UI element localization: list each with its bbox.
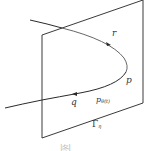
arrow-icon-upper xyxy=(106,42,111,46)
label-q: q xyxy=(71,98,77,107)
label-p-theta: pθ(t) xyxy=(96,96,110,104)
label-gamma-eta: Γη xyxy=(92,120,101,129)
label-r: r xyxy=(112,29,116,38)
figure: r p q pθ(t) Γη 图 … xyxy=(0,0,146,151)
label-eta-sub: η xyxy=(98,123,101,129)
figure-caption: 图 … xyxy=(0,144,146,151)
label-p: p xyxy=(126,76,132,85)
curve-lower-arc xyxy=(42,72,126,100)
curve-outgoing xyxy=(5,100,42,108)
curve-upper-arc xyxy=(62,28,127,72)
label-p-theta-sub: θ(t) xyxy=(101,98,110,104)
plane-gamma-eta xyxy=(42,0,143,138)
arrow-icon-lower xyxy=(72,92,77,96)
curve-incoming xyxy=(30,20,62,28)
diagram-canvas xyxy=(0,0,146,151)
